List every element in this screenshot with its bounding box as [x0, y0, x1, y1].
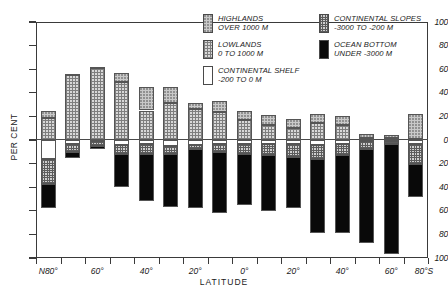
- ocean-bottom-segment: [408, 164, 423, 197]
- x-axis-tick: [428, 258, 429, 264]
- x-axis-tick: [232, 258, 233, 264]
- y-axis-tick-label: 100: [422, 17, 448, 27]
- highlands-segment: [41, 111, 56, 118]
- continental-shelf-segment: [41, 140, 56, 159]
- x-axis-tick: [159, 258, 160, 264]
- bar-group: [65, 22, 80, 258]
- x-axis-tick-label: N80°: [39, 266, 58, 276]
- bar-group: [41, 22, 56, 258]
- lowlands-swatch: [203, 40, 213, 59]
- lowlands-segment: [286, 128, 301, 140]
- lowlands-segment: [41, 118, 56, 140]
- ocean-bottom-segment: [335, 155, 350, 233]
- continental-slopes-segment: [359, 141, 374, 149]
- y-axis-tick: [29, 139, 36, 140]
- ocean-bottom-segment: [310, 159, 325, 233]
- bar-group: [114, 22, 129, 258]
- legend-item: HIGHLANDSOVER 1000 M: [203, 14, 268, 33]
- y-axis-tick: [29, 45, 36, 46]
- x-axis-tick-label: 40°: [140, 266, 153, 276]
- highlands-segment: [310, 114, 325, 123]
- x-axis-tick-label: 0°: [240, 266, 248, 276]
- continental-slopes-segment: [212, 144, 227, 152]
- highlands-segment: [408, 114, 423, 139]
- ocean-bottom-segment: [90, 146, 105, 150]
- lowlands-segment: [163, 103, 178, 140]
- highlands-segment: [139, 87, 154, 111]
- ocean-bottom-segment: [163, 154, 178, 207]
- x-axis-tick: [257, 258, 258, 264]
- lowlands-segment: [335, 125, 350, 140]
- x-axis-tick: [36, 258, 37, 264]
- lowlands-segment: [212, 112, 227, 140]
- y-axis-tick-label: 20: [422, 158, 448, 168]
- x-axis-tick-label: 60°: [91, 266, 104, 276]
- x-axis-tick-label: 20°: [189, 266, 202, 276]
- lowlands-segment: [65, 75, 80, 140]
- legend-item-range: -200 TO 0 M: [218, 75, 299, 84]
- y-axis-tick-label: 60: [422, 64, 448, 74]
- ocean-bottom-segment: [139, 154, 154, 201]
- y-axis-tick: [29, 69, 36, 70]
- ocean-bottom-segment: [65, 152, 80, 158]
- y-axis-tick-label: 60: [422, 205, 448, 215]
- y-axis-tick: [29, 210, 36, 211]
- legend-item-name: CONTINENTAL SLOPES: [334, 14, 421, 23]
- shelf-swatch: [203, 66, 213, 85]
- lowlands-segment: [90, 68, 105, 140]
- slopes-swatch: [319, 14, 329, 33]
- legend-item-name: LOWLANDS: [218, 40, 263, 49]
- legend-item: CONTINENTAL SHELF-200 TO 0 M: [203, 66, 299, 85]
- highlands-swatch: [203, 14, 213, 33]
- x-axis-tick: [330, 258, 331, 264]
- lowlands-segment: [310, 123, 325, 140]
- x-axis-tick: [110, 258, 111, 264]
- highlands-segment: [163, 87, 178, 104]
- legend-item-range: 0 TO 1000 M: [218, 49, 263, 58]
- ocean-bottom-segment: [384, 144, 399, 255]
- highlands-segment: [261, 115, 276, 124]
- continental-slopes-segment: [41, 159, 56, 184]
- continental-slopes-segment: [286, 144, 301, 157]
- legend-item: LOWLANDS0 TO 1000 M: [203, 40, 263, 59]
- legend-item-range: -3000 TO -200 M: [334, 23, 421, 32]
- lowlands-segment: [139, 111, 154, 141]
- bar-group: [90, 22, 105, 258]
- y-axis-tick: [29, 257, 36, 258]
- legend-item-name: HIGHLANDS: [218, 14, 268, 23]
- x-axis-tick: [306, 258, 307, 264]
- y-axis-tick: [29, 234, 36, 235]
- ocean-bottom-segment: [212, 152, 227, 213]
- x-axis-tick-label: 80°S: [415, 266, 434, 276]
- y-axis-tick-label: 20: [422, 111, 448, 121]
- x-axis-tick: [183, 258, 184, 264]
- continental-slopes-segment: [237, 144, 252, 155]
- highlands-segment: [335, 116, 350, 124]
- highlands-segment: [237, 111, 252, 120]
- highlands-segment: [286, 119, 301, 128]
- y-axis-tick-label: 0: [422, 135, 448, 145]
- y-axis-tick-label: 80: [422, 40, 448, 50]
- ocean-bottom-segment: [261, 155, 276, 210]
- continental-slopes-segment: [163, 146, 178, 154]
- x-axis-tick: [61, 258, 62, 264]
- x-axis-tick: [404, 258, 405, 264]
- legend-item: OCEAN BOTTOMUNDER -3000 M: [319, 40, 397, 59]
- continental-slopes-segment: [114, 145, 129, 154]
- x-axis-tick-label: 40°: [336, 266, 349, 276]
- legend-item-name: CONTINENTAL SHELF: [218, 66, 299, 75]
- y-axis-tick: [29, 116, 36, 117]
- x-axis-tick: [379, 258, 380, 264]
- y-axis-tick: [29, 21, 36, 22]
- x-axis-tick: [355, 258, 356, 264]
- lowlands-segment: [188, 109, 203, 140]
- x-axis-tick: [281, 258, 282, 264]
- highlands-segment: [212, 101, 227, 112]
- y-axis-tick-label: 100: [422, 253, 448, 263]
- legend-item-name: OCEAN BOTTOM: [334, 40, 397, 49]
- continental-slopes-segment: [335, 144, 350, 156]
- y-axis-title: PER CENT: [9, 107, 19, 167]
- legend-item-range: OVER 1000 M: [218, 23, 268, 32]
- y-axis-tick-label: 40: [422, 182, 448, 192]
- lowlands-segment: [261, 125, 276, 140]
